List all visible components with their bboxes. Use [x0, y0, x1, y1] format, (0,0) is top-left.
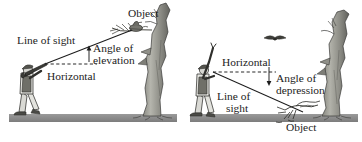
label-line-of-sight-right-line2: sight — [226, 102, 249, 114]
label-horizontal-right: Horizontal — [222, 56, 271, 68]
label-angle-of-elevation-line2: elevation — [93, 54, 135, 66]
label-angle-of-elevation-line1: Angle of — [93, 42, 133, 54]
person-boot-back-left — [14, 112, 26, 115]
label-object-left: Object — [128, 7, 159, 19]
label-angle-of-depression-line2: depression — [276, 84, 325, 96]
flying-bird-body — [273, 38, 277, 40]
label-line-of-sight-right-line1: Line of — [217, 90, 250, 102]
label-horizontal-left: Horizontal — [47, 70, 96, 82]
label-angle-of-depression-line1: Angle of — [276, 72, 316, 84]
diagram-canvas: Line of sight Angle of elevation Horizon… — [0, 0, 362, 142]
trigonometry-diagram: Line of sight Angle of elevation Horizon… — [0, 0, 362, 142]
person-boot-back-right — [190, 113, 202, 116]
label-line-of-sight-left: Line of sight — [17, 34, 76, 46]
label-object-right: Object — [286, 121, 317, 133]
